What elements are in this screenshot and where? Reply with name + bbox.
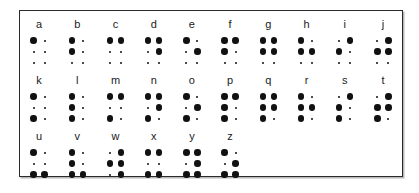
braille-dot-2-raised <box>336 48 343 55</box>
braille-dot-grid <box>28 35 50 68</box>
letter-label: n <box>151 74 157 88</box>
braille-dot-4-flat <box>44 40 46 42</box>
letter-label: l <box>76 74 78 88</box>
braille-cell-c[interactable]: c <box>96 18 134 68</box>
braille-dot-2-flat <box>33 163 35 165</box>
braille-dot-3-raised <box>69 115 76 122</box>
braille-cell-empty <box>364 130 402 180</box>
braille-dot-grid <box>28 147 50 180</box>
braille-dot-5-raised <box>271 104 278 111</box>
braille-dot-5-flat <box>120 107 122 109</box>
braille-dot-3-flat <box>338 62 340 64</box>
braille-cell-f[interactable]: f <box>211 18 249 68</box>
braille-dot-2-flat <box>147 163 149 165</box>
braille-dot-grid <box>334 91 356 124</box>
braille-cell-l[interactable]: l <box>58 74 96 124</box>
braille-dot-6-flat <box>44 118 46 120</box>
braille-dot-1-flat <box>376 40 378 42</box>
braille-dot-4-raised <box>156 149 163 156</box>
braille-dot-1-raised <box>107 37 114 44</box>
letter-label: r <box>305 74 309 88</box>
letter-label: k <box>36 74 42 88</box>
braille-dot-2-raised <box>221 104 228 111</box>
braille-cell-g[interactable]: g <box>249 18 287 68</box>
braille-cell-t[interactable]: t <box>364 74 402 124</box>
braille-cell-z[interactable]: z <box>211 130 249 180</box>
braille-dot-3-raised <box>145 115 152 122</box>
braille-dot-grid <box>181 147 203 180</box>
braille-dot-1-raised <box>221 149 228 156</box>
braille-cell-p[interactable]: p <box>211 74 249 124</box>
braille-dot-6-flat <box>273 62 275 64</box>
braille-cell-o[interactable]: o <box>173 74 211 124</box>
braille-dot-5-raised <box>156 48 163 55</box>
braille-cell-a[interactable]: a <box>20 18 58 68</box>
letter-label: c <box>113 18 119 32</box>
braille-dot-2-flat <box>33 107 35 109</box>
braille-dot-3-flat <box>262 62 264 64</box>
braille-cell-h[interactable]: h <box>287 18 325 68</box>
braille-dot-grid <box>334 35 356 68</box>
braille-dot-2-raised <box>107 160 114 167</box>
braille-dot-grid <box>219 147 241 180</box>
braille-dot-grid <box>372 91 394 124</box>
braille-cell-m[interactable]: m <box>96 74 134 124</box>
braille-dot-3-raised <box>221 171 228 178</box>
braille-dot-6-flat <box>196 118 198 120</box>
braille-dot-4-flat <box>82 96 84 98</box>
braille-cell-r[interactable]: r <box>287 74 325 124</box>
braille-dot-3-raised <box>30 171 37 178</box>
braille-dot-1-flat <box>338 96 340 98</box>
braille-cell-q[interactable]: q <box>249 74 287 124</box>
braille-dot-5-raised <box>309 48 316 55</box>
braille-cell-v[interactable]: v <box>58 130 96 180</box>
braille-cell-d[interactable]: d <box>135 18 173 68</box>
braille-dot-5-flat <box>44 51 46 53</box>
braille-dot-6-flat <box>235 118 237 120</box>
braille-dot-5-flat <box>44 107 46 109</box>
braille-cell-x[interactable]: x <box>135 130 173 180</box>
letter-label: s <box>342 74 348 88</box>
braille-dot-2-flat <box>185 163 187 165</box>
braille-dot-grid <box>296 35 318 68</box>
braille-cell-n[interactable]: n <box>135 74 173 124</box>
braille-dot-grid <box>66 35 88 68</box>
braille-dot-3-raised <box>298 115 305 122</box>
braille-dot-2-raised <box>374 48 381 55</box>
braille-dot-4-flat <box>44 152 46 154</box>
braille-dot-4-raised <box>271 93 278 100</box>
braille-dot-3-raised <box>69 171 76 178</box>
braille-dot-1-raised <box>221 93 228 100</box>
braille-cell-u[interactable]: u <box>20 130 58 180</box>
braille-cell-s[interactable]: s <box>326 74 364 124</box>
braille-dot-5-flat <box>349 51 351 53</box>
braille-cell-w[interactable]: w <box>96 130 134 180</box>
braille-dot-grid <box>257 35 279 68</box>
braille-dot-2-raised <box>69 160 76 167</box>
braille-dot-2-flat <box>185 51 187 53</box>
braille-dot-grid <box>105 91 127 124</box>
braille-dot-1-flat <box>338 40 340 42</box>
braille-dot-1-flat <box>109 152 111 154</box>
braille-cell-j[interactable]: j <box>364 18 402 68</box>
braille-dot-3-raised <box>336 115 343 122</box>
braille-dot-6-flat <box>158 118 160 120</box>
braille-dot-1-raised <box>30 93 37 100</box>
braille-dot-6-flat <box>44 62 46 64</box>
braille-dot-6-flat <box>158 62 160 64</box>
braille-cell-i[interactable]: i <box>326 18 364 68</box>
braille-dot-1-raised <box>30 37 37 44</box>
braille-cell-e[interactable]: e <box>173 18 211 68</box>
braille-dot-3-flat <box>224 62 226 64</box>
braille-cell-y[interactable]: y <box>173 130 211 180</box>
braille-dot-6-flat <box>311 62 313 64</box>
braille-cell-k[interactable]: k <box>20 74 58 124</box>
braille-dot-1-raised <box>183 37 190 44</box>
braille-dot-4-raised <box>347 93 354 100</box>
braille-dot-4-raised <box>118 37 125 44</box>
braille-dot-2-flat <box>224 163 226 165</box>
braille-dot-grid <box>105 35 127 68</box>
braille-dot-grid <box>143 91 165 124</box>
braille-dot-1-raised <box>183 149 190 156</box>
braille-cell-b[interactable]: b <box>58 18 96 68</box>
